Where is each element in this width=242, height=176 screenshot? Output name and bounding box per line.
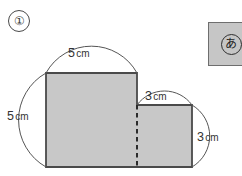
dimension-label-step: 3cm bbox=[145, 90, 167, 103]
figure-drawing bbox=[0, 0, 242, 176]
figure-container: ① 5cm 5cm 3cm 3cm あ bbox=[0, 0, 242, 176]
dimension-unit-left: cm bbox=[15, 111, 29, 122]
dimension-label-left: 5cm bbox=[7, 110, 29, 123]
answer-box: あ bbox=[208, 22, 242, 66]
answer-box-marker: あ bbox=[221, 34, 242, 55]
l-shape-polygon bbox=[46, 73, 192, 167]
dimension-arc-top bbox=[46, 46, 137, 73]
dimension-unit-right: cm bbox=[205, 132, 219, 143]
dimension-label-top: 5cm bbox=[68, 47, 90, 60]
dimension-value-step: 3 bbox=[145, 89, 152, 103]
dimension-value-left: 5 bbox=[7, 109, 14, 123]
dimension-unit-step: cm bbox=[153, 91, 167, 102]
dimension-unit-top: cm bbox=[76, 48, 90, 59]
dimension-value-top: 5 bbox=[68, 46, 75, 60]
dimension-label-right: 3cm bbox=[197, 131, 219, 144]
dimension-value-right: 3 bbox=[197, 130, 204, 144]
